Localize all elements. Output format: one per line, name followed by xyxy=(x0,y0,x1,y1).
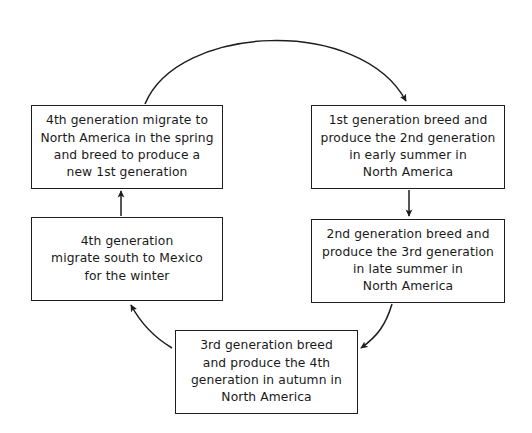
node-gen4-spring: 4th generation migrate to North America … xyxy=(31,105,223,189)
diagram-canvas: 4th generation migrate to North America … xyxy=(0,0,532,433)
node-gen1-label: 1st generation breed and produce the 2nd… xyxy=(317,112,500,182)
node-gen2-label: 2nd generation breed and produce the 3rd… xyxy=(318,226,498,296)
node-gen1: 1st generation breed and produce the 2nd… xyxy=(311,105,505,189)
node-gen3: 3rd generation breed and produce the 4th… xyxy=(175,330,358,414)
node-gen3-label: 3rd generation breed and produce the 4th… xyxy=(187,337,346,407)
edge-gen2-to-gen3 xyxy=(361,304,392,348)
node-gen4-mexico: 4th generation migrate south to Mexico f… xyxy=(31,217,223,301)
node-gen4-mexico-label: 4th generation migrate south to Mexico f… xyxy=(47,233,207,285)
node-gen4-spring-label: 4th generation migrate to North America … xyxy=(36,112,217,182)
node-gen2: 2nd generation breed and produce the 3rd… xyxy=(311,219,505,303)
edge-gen3-to-gen4mexico xyxy=(131,305,172,348)
edge-gen4spring-to-gen1 xyxy=(145,41,406,104)
